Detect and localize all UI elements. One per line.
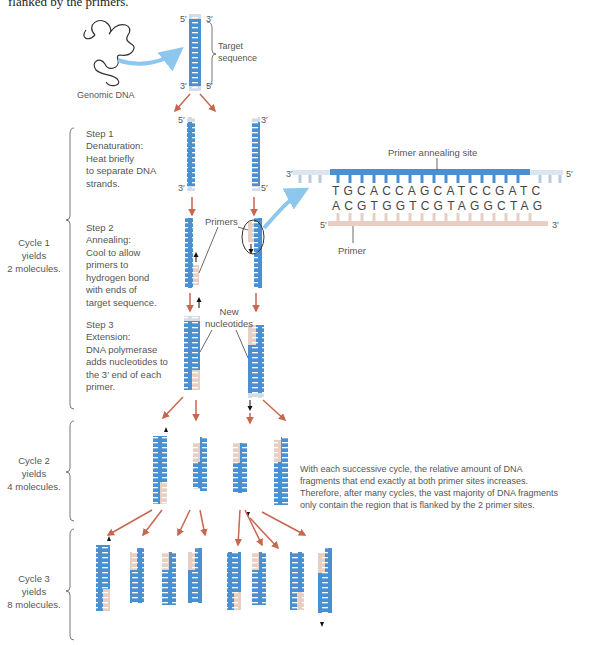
step2-strand-left <box>185 218 199 288</box>
end-label: 3′ <box>180 80 187 92</box>
step2-title: Step 2 <box>86 222 113 235</box>
end-label: 3′ <box>286 168 293 180</box>
primer-annealing-site-label: Primer annealing site <box>388 147 477 159</box>
end-label: 5′ <box>180 13 187 25</box>
end-label: 5′ <box>261 182 268 194</box>
cycle-note: With each successive cycle, the relative… <box>300 463 562 511</box>
step2-text: Annealing: Cool to allow primers to hydr… <box>86 234 157 309</box>
cycle2-molecules <box>153 427 288 517</box>
cycle1-bracket <box>66 128 74 409</box>
end-label: 5′ <box>566 168 573 180</box>
step3-duplex-left <box>184 316 200 390</box>
end-label: 5′ <box>206 80 213 92</box>
top-sequence: TGCACCAGCATCCGATC <box>332 184 544 198</box>
new-nucleotides-label: New nucleotides <box>205 306 253 330</box>
step3-duplex-right <box>248 325 264 398</box>
step1-text: Denaturation: Heat briefly to separate D… <box>86 140 156 190</box>
end-label: 3′ <box>206 13 213 25</box>
end-label: 5′ <box>320 219 327 231</box>
cycle3-label: Cycle 3 yields 8 molecules. <box>6 572 62 611</box>
genomic-dna-label: Genomic DNA <box>77 89 135 101</box>
genomic-dna-icon <box>84 20 134 85</box>
cycle2-bracket <box>66 421 74 521</box>
curved-arrow-icon <box>118 50 180 64</box>
step3-title: Step 3 <box>86 319 113 332</box>
end-label: 3′ <box>178 182 185 194</box>
target-sequence-label: Target sequence <box>218 40 257 64</box>
cycle3-bracket <box>66 529 74 640</box>
cycle1-label: Cycle 1 yields 2 molecules. <box>6 236 62 275</box>
step3-text: Extension: DNA polymerase adds nucleotid… <box>86 331 168 394</box>
step1-title: Step 1 <box>86 128 113 141</box>
bottom-sequence: ACGTGGTCGTAGGCTAG <box>332 199 546 213</box>
primers-label: Primers <box>205 216 238 228</box>
primer-label: Primer <box>338 245 366 257</box>
end-label: 5′ <box>178 114 185 126</box>
cycle2-label: Cycle 2 yields 4 molecules. <box>6 454 62 493</box>
end-label: 3′ <box>552 219 559 231</box>
end-label: 3′ <box>261 114 268 126</box>
step1-strand-right <box>252 117 260 191</box>
step1-strand-left <box>187 117 195 191</box>
target-dna-duplex <box>189 14 201 91</box>
cycle3-molecules <box>96 536 332 627</box>
